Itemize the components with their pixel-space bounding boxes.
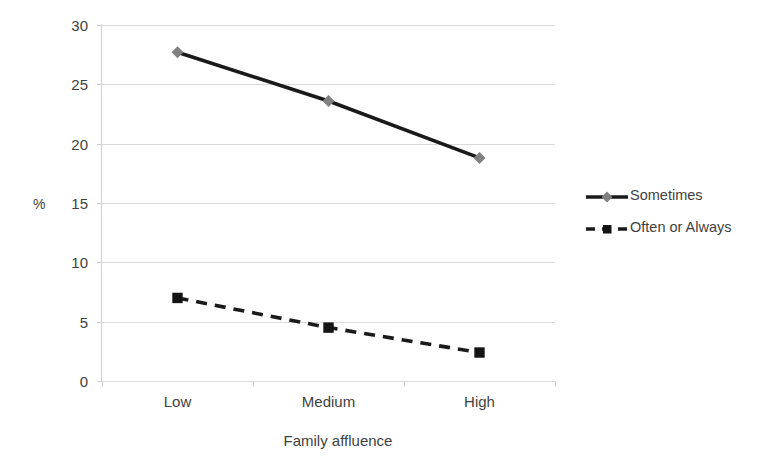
plot-area	[102, 25, 555, 381]
legend-key-often-or-always-icon	[586, 221, 630, 237]
y-axis-tick-label: 25	[48, 77, 88, 92]
x-axis-tick-label-low: Low	[118, 394, 238, 409]
x-axis-title-text: Family affluence	[284, 432, 393, 449]
x-axis-tick-mark	[404, 381, 405, 387]
gridline	[102, 203, 555, 204]
y-axis-tick-label: 30	[48, 18, 88, 33]
y-axis-tick-label: 0	[48, 374, 88, 389]
y-axis-tick-mark	[97, 84, 102, 85]
gridline	[102, 262, 555, 263]
x-axis-tick-label-medium: Medium	[269, 394, 389, 409]
legend-item-often-or-always[interactable]: Often or Always	[586, 218, 761, 250]
legend-label-sometimes: Sometimes	[630, 186, 703, 204]
gridline	[102, 25, 555, 26]
y-axis-tick-mark	[97, 322, 102, 323]
gridline	[102, 381, 555, 382]
gridline	[102, 144, 555, 145]
line-chart: % 051015202530 LowMediumHigh Family affl…	[0, 0, 764, 470]
y-axis-tick-label: 10	[48, 255, 88, 270]
x-axis-tick-mark	[555, 381, 556, 387]
y-axis-tick-label: 20	[48, 137, 88, 152]
y-axis-tick-label: 5	[48, 315, 88, 330]
y-axis-unit-label: %	[33, 197, 45, 211]
y-axis-tick-mark	[97, 262, 102, 263]
x-axis-tick-mark	[253, 381, 254, 387]
chart-legend: Sometimes Often or Always	[586, 186, 761, 250]
y-axis-tick-label: 15	[48, 196, 88, 211]
y-axis-tick-mark	[97, 25, 102, 26]
legend-item-sometimes[interactable]: Sometimes	[586, 186, 761, 218]
legend-label-often-or-always: Often or Always	[630, 218, 732, 236]
x-axis-tick-label-high: High	[420, 394, 540, 409]
gridline	[102, 322, 555, 323]
y-axis-tick-mark	[97, 144, 102, 145]
y-axis-tick-mark	[97, 203, 102, 204]
gridline	[102, 84, 555, 85]
x-axis-title: Family affluence	[0, 432, 764, 449]
x-axis-tick-mark	[102, 381, 103, 387]
legend-key-sometimes-icon	[586, 189, 630, 205]
